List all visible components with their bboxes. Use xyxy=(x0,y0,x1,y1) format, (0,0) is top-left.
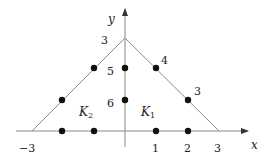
node-label: 3 xyxy=(194,85,201,98)
node xyxy=(59,97,65,103)
x-axis-label: x xyxy=(251,138,258,152)
node xyxy=(153,65,159,71)
node xyxy=(153,128,159,134)
node xyxy=(122,97,128,103)
x-tick-label: 1 xyxy=(152,142,159,155)
region-label-k1: K1 xyxy=(140,105,155,120)
node-label: 6 xyxy=(107,97,114,110)
y-axis-label: y xyxy=(107,12,115,26)
node xyxy=(185,97,191,103)
node xyxy=(122,65,128,71)
x-tick-label: 2 xyxy=(184,142,191,155)
finite-element-triangle-diagram: y x −3 1 2 3 3 5 6 4 3 K1 K2 xyxy=(0,0,271,160)
x-tick-label: −3 xyxy=(19,142,35,155)
triangle-right-edge xyxy=(125,38,219,131)
node xyxy=(185,128,191,134)
x-tick-label: 3 xyxy=(214,142,221,155)
node xyxy=(91,128,97,134)
node xyxy=(91,65,97,71)
node-label: 4 xyxy=(161,54,168,67)
node-label: 3 xyxy=(101,34,108,47)
region-label-k2: K2 xyxy=(78,105,93,120)
node-label: 5 xyxy=(107,65,114,78)
node xyxy=(59,128,65,134)
